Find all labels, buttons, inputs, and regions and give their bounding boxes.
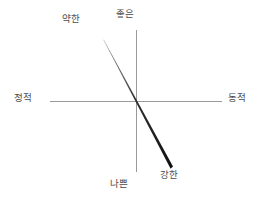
axis-label-good: 좋은 [116, 9, 134, 19]
axis-label-static: 정적 [14, 93, 32, 103]
axis-label-weak: 약한 [62, 14, 80, 24]
axis-label-strong: 강한 [160, 170, 178, 180]
diagram-graphics [0, 0, 269, 208]
axis-label-bad: 나쁜 [110, 179, 128, 189]
trend-line-taper [103, 40, 173, 169]
quadrant-diagram: 약한 좋은 정적 동적 나쁜 강한 [0, 0, 269, 208]
axis-label-dynamic: 동적 [228, 93, 246, 103]
